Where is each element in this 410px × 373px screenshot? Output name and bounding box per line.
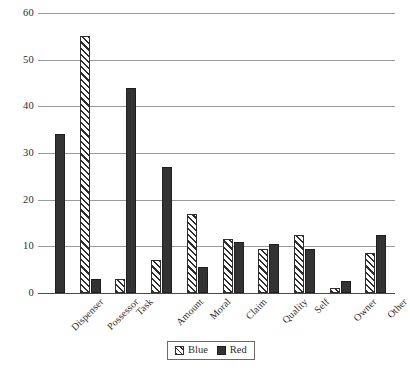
legend-entry-blue: Blue [175,344,208,356]
bar-chart: 0102030405060 DispenserPossessorTaskAmou… [0,0,410,373]
x-tick-label-possessor: Possessor [104,296,140,332]
legend-label-red: Red [230,344,247,356]
y-tick-label-40: 40 [6,101,34,112]
bar-group [330,13,360,293]
x-tick-label-owner: Owner [351,296,378,323]
bar-red-other [376,235,386,293]
chart-legend: Blue Red [167,341,255,360]
bar-blue-task [115,279,125,293]
y-tick-label-30: 30 [6,148,34,159]
bar-group [151,13,181,293]
bar-red-amount [162,167,172,293]
legend-label-blue: Blue [188,344,208,356]
bar-group [80,13,110,293]
plot-area [38,13,395,293]
bar-group [223,13,253,293]
y-tick-label-20: 20 [6,195,34,206]
bar-group [115,13,145,293]
legend-swatch-blue-icon [175,346,184,355]
gridline-0 [38,293,395,294]
bar-red-possessor [91,279,101,293]
legend-entry-red: Red [217,344,247,356]
bar-group [294,13,324,293]
bar-red-dispenser [55,134,65,293]
x-tick-label-dispenser: Dispenser [69,296,106,333]
x-axis-tick-labels: DispenserPossessorTaskAmountMoralClaimQu… [38,296,395,342]
bar-red-quality [269,244,279,293]
y-tick-label-60: 60 [6,8,34,19]
bar-red-owner [341,281,351,293]
x-tick-label-other: Other [385,296,409,320]
x-tick-label-amount: Amount [174,296,205,327]
y-axis-tick-labels: 0102030405060 [0,13,34,293]
bar-blue-amount [151,260,161,293]
bar-blue-other [365,253,375,293]
y-tick-label-10: 10 [6,241,34,252]
bar-blue-quality [258,249,268,293]
x-tick-label-self: Self [312,296,331,315]
legend-swatch-red-icon [217,346,226,355]
bar-red-moral [198,267,208,293]
x-tick-label-moral: Moral [207,296,232,321]
bar-blue-owner [330,288,340,293]
bar-blue-self [294,235,304,293]
bar-group [44,13,74,293]
x-tick-label-claim: Claim [243,296,268,321]
bar-group [365,13,395,293]
x-tick-label-quality: Quality [280,296,309,325]
bar-red-self [305,249,315,293]
bar-blue-claim [223,239,233,293]
bar-group [187,13,217,293]
bar-red-claim [234,242,244,293]
bar-blue-moral [187,214,197,293]
y-tick-label-0: 0 [6,288,34,299]
bar-group [258,13,288,293]
y-tick-label-50: 50 [6,55,34,66]
bar-blue-possessor [80,36,90,293]
bar-red-task [126,88,136,293]
